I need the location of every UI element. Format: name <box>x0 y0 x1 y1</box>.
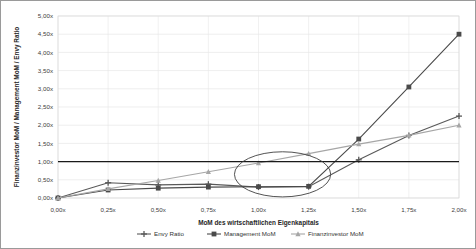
chart-legend: Envy RatioManagement MoMFinanzinvestor M… <box>137 230 364 237</box>
x-tick-label-3: 0,75x <box>201 206 217 213</box>
data-point-square <box>356 137 361 142</box>
y-tick-label-7: 3,50x <box>38 67 54 74</box>
data-point-square <box>212 232 217 237</box>
y-tick-label-8: 4,00x <box>38 49 54 56</box>
data-point-square <box>306 184 311 189</box>
data-point-square <box>406 85 411 90</box>
x-tick-label-2: 0,50x <box>151 206 167 213</box>
y-tick-label-10: 5,00x <box>38 12 54 19</box>
data-point-square <box>156 186 161 191</box>
chart-container: 0,00x0,50x1,00x1,50x2,00x2,50x3,00x3,50x… <box>0 0 476 249</box>
x-tick-label-4: 1,00x <box>251 206 267 213</box>
legend-label: Management MoM <box>224 230 276 237</box>
y-tick-label-3: 1,50x <box>38 140 54 147</box>
legend-label: Finanzinvestor MoM <box>308 230 364 237</box>
y-tick-label-2: 1,00x <box>38 158 54 165</box>
data-point-square <box>206 185 211 190</box>
y-tick-label-9: 4,50x <box>38 30 54 37</box>
y-tick-label-5: 2,50x <box>38 103 54 110</box>
y-tick-label-1: 0,50x <box>38 176 54 183</box>
y-tick-label-4: 2,00x <box>38 121 54 128</box>
x-tick-label-8: 2,00x <box>451 206 467 213</box>
chart-figure: 0,00x0,50x1,00x1,50x2,00x2,50x3,00x3,50x… <box>0 0 476 249</box>
y-tick-label-0: 0,00x <box>38 194 54 201</box>
x-tick-label-5: 1,25x <box>301 206 317 213</box>
x-axis-tick-labels: 0,00x0,25x0,50x0,75x1,00x1,25x1,50x1,75x… <box>50 206 467 213</box>
x-axis-title: MoM des wirtschaftlichen Eigenkapitals <box>198 219 319 227</box>
y-axis-title: Finanzinvestor MoM / Management MoM / En… <box>13 27 21 188</box>
x-tick-label-7: 1,75x <box>401 206 417 213</box>
data-point-square <box>256 184 261 189</box>
legend-label: Envy Ratio <box>154 230 184 237</box>
data-point-square <box>457 32 462 37</box>
x-tick-label-0: 0,00x <box>50 206 66 213</box>
y-tick-label-6: 3,00x <box>38 85 54 92</box>
x-tick-label-1: 0,25x <box>101 206 117 213</box>
x-tick-label-6: 1,50x <box>351 206 367 213</box>
legend-item-envy-ratio[interactable]: Envy Ratio <box>137 230 184 237</box>
